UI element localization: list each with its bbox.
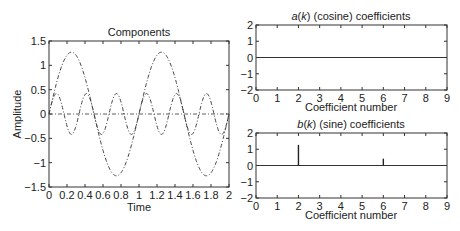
sine-xtick-label: 3 <box>317 200 323 212</box>
sine-title-rest: ) (sine) coefficients <box>313 118 406 130</box>
sine-ytick-label: −2 <box>240 192 253 204</box>
sine-ytick-label: 2 <box>247 127 253 139</box>
components-ylabel: Amplitude <box>11 90 23 139</box>
components-xtick-label: 0.8 <box>113 189 128 201</box>
cosine-xtick-label: 1 <box>274 92 280 104</box>
components-xtick-label: 1.8 <box>203 189 218 201</box>
components-xtick-label: 1 <box>136 189 142 201</box>
cosine-xtick-label: 6 <box>380 92 386 104</box>
components-xtick-label: 1.2 <box>149 189 164 201</box>
sine-xtick-label: 5 <box>359 200 365 212</box>
cosine-ytick-label: 0 <box>247 52 253 64</box>
cosine-xtick-label: 0 <box>253 92 259 104</box>
cosine-xtick-label: 8 <box>423 92 429 104</box>
components-ytick-label: −0.5 <box>24 132 46 144</box>
components-xtick-label: 0 <box>46 189 52 201</box>
sine-ytick-label: −1 <box>240 176 253 188</box>
figure: Components Time Amplitude 00.20.40.60.81… <box>0 0 460 231</box>
cosine-coefficients-plot: a(k) (cosine) coefficients Coefficient n… <box>240 10 450 113</box>
components-ytick-label: 1.5 <box>31 35 46 47</box>
components-xtick-label: 2 <box>226 189 232 201</box>
components-title: Components <box>108 26 171 38</box>
cosine-xtick-label: 3 <box>317 92 323 104</box>
sine-ytick-label: 1 <box>247 143 253 155</box>
sine-xtick-label: 1 <box>274 200 280 212</box>
sine-xtick-label: 4 <box>338 200 344 212</box>
cosine-xtick-label: 4 <box>338 92 344 104</box>
sine-xtick-label: 2 <box>295 200 301 212</box>
cosine-title: a(k) (cosine) coefficients <box>291 10 411 22</box>
cosine-xtick-label: 9 <box>444 92 450 104</box>
components-xtick-label: 0.4 <box>77 189 92 201</box>
cosine-xtick-label: 7 <box>401 92 407 104</box>
sine-xtick-label: 8 <box>423 200 429 212</box>
components-plot: Components Time Amplitude 00.20.40.60.81… <box>11 26 232 213</box>
components-xlabel: Time <box>127 201 151 213</box>
components-xtick-label: 0.6 <box>95 189 110 201</box>
sine-ytick-label: 0 <box>247 160 253 172</box>
components-ytick-label: −1.5 <box>24 181 46 193</box>
cosine-ytick-label: 2 <box>247 19 253 31</box>
cosine-ytick-label: −2 <box>240 84 253 96</box>
cosine-xtick-label: 5 <box>359 92 365 104</box>
cosine-ytick-label: 1 <box>247 35 253 47</box>
components-ytick-label: 0.5 <box>31 84 46 96</box>
sine-xtick-label: 6 <box>380 200 386 212</box>
components-ytick-label: 0 <box>40 108 46 120</box>
components-ytick-label: 1 <box>40 59 46 71</box>
components-xtick-label: 0.2 <box>59 189 74 201</box>
sine-xtick-label: 0 <box>253 200 259 212</box>
cosine-title-rest: ) (cosine) coefficients <box>307 10 411 22</box>
components-ytick-label: −1 <box>33 157 46 169</box>
sine-coefficients-plot: b(k) (sine) coefficients Coefficient num… <box>240 118 450 221</box>
sine-xtick-label: 7 <box>401 200 407 212</box>
sine-xtick-label: 9 <box>444 200 450 212</box>
cosine-xtick-label: 2 <box>295 92 301 104</box>
cosine-ytick-label: −1 <box>240 68 253 80</box>
components-xtick-label: 1.4 <box>167 189 182 201</box>
sine-title: b(k) (sine) coefficients <box>297 118 405 130</box>
components-xtick-label: 1.6 <box>185 189 200 201</box>
